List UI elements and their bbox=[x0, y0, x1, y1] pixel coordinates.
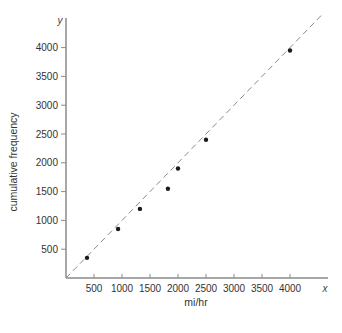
reference-line-y-equals-x bbox=[66, 13, 324, 278]
x-tick-label: 1500 bbox=[139, 283, 162, 294]
y-tick-label: 4000 bbox=[36, 42, 59, 53]
y-tick-label: 2500 bbox=[36, 129, 59, 140]
y-tick-label: 3500 bbox=[36, 71, 59, 82]
data-point bbox=[288, 48, 292, 52]
data-point bbox=[138, 207, 142, 211]
x-tick-label: 3500 bbox=[251, 283, 274, 294]
dashed-line bbox=[66, 13, 324, 278]
y-axis-variable: y bbox=[57, 15, 64, 26]
x-axis-ticks: 5001000150020002500300035004000 bbox=[86, 274, 302, 294]
x-tick-label: 2500 bbox=[195, 283, 218, 294]
x-tick-label: 2000 bbox=[167, 283, 190, 294]
y-tick-label: 2000 bbox=[36, 157, 59, 168]
data-point bbox=[166, 187, 170, 191]
x-axis-variable: x bbox=[322, 283, 329, 294]
x-tick-label: 1000 bbox=[111, 283, 134, 294]
x-tick-label: 3000 bbox=[223, 283, 246, 294]
y-tick-label: 1500 bbox=[36, 186, 59, 197]
y-tick-label: 1000 bbox=[36, 215, 59, 226]
x-tick-label: 4000 bbox=[279, 283, 302, 294]
y-tick-label: 500 bbox=[41, 244, 58, 255]
y-tick-label: 3000 bbox=[36, 100, 59, 111]
y-axis-title: cumulative frequency bbox=[7, 112, 19, 212]
x-tick-label: 500 bbox=[86, 283, 103, 294]
data-point bbox=[85, 256, 89, 260]
y-axis-ticks: 5001000150020002500300035004000 bbox=[36, 42, 66, 255]
scatter-chart: 5001000150020002500300035004000 50010001… bbox=[0, 0, 342, 333]
x-axis-title: mi/hr bbox=[184, 296, 208, 308]
axes bbox=[66, 18, 328, 278]
data-point bbox=[204, 138, 208, 142]
data-point bbox=[116, 227, 120, 231]
data-point bbox=[176, 166, 180, 170]
data-points bbox=[85, 48, 292, 260]
